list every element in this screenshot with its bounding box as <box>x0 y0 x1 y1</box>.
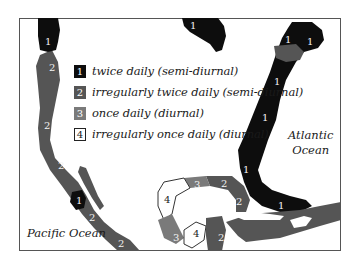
region-label-labrador: 1 <box>285 34 291 45</box>
legend-item-2: 2 irregularly twice daily (semi-diurnal) <box>74 82 303 102</box>
region-label-california: 2 <box>44 120 50 131</box>
region-label-mexico-west: 2 <box>89 212 95 223</box>
region-label-alaska: 1 <box>45 36 51 47</box>
region-label-baja: 2 <box>58 160 64 171</box>
pacific-ocean-label: Pacific Ocean <box>27 226 106 241</box>
region-label-east-coast-south: 1 <box>243 164 249 175</box>
region-label-nova-scotia: 1 <box>274 76 280 87</box>
atlantic-ocean-label: Atlantic Ocean <box>288 128 333 158</box>
hudson-bay-region <box>182 18 226 52</box>
region-label-gulf-sw: 3 <box>173 232 179 243</box>
gulf-north-type2 <box>206 176 250 212</box>
legend-item-1: 1 twice daily (semi-diurnal) <box>74 61 303 81</box>
region-label-east-coast-north: 1 <box>262 112 268 123</box>
region-label-campeche: 4 <box>193 228 199 239</box>
region-label-gulf-north: 3 <box>194 179 200 190</box>
legend-swatch-1: 1 <box>74 65 86 78</box>
legend-label-4: irregularly once daily (diurnal) <box>92 127 269 141</box>
atlantic-label-line1: Atlantic <box>288 128 333 143</box>
region-label-hudson: 1 <box>190 20 196 31</box>
region-label-newfoundland: 1 <box>307 36 313 47</box>
gulf-texas-type4 <box>158 178 190 220</box>
gulf-southwest-type3 <box>158 214 184 244</box>
legend-label-2: irregularly twice daily (semi-diurnal) <box>92 85 303 99</box>
legend-swatch-2: 2 <box>74 86 86 99</box>
region-label-yucatan: 2 <box>218 232 224 243</box>
region-label-florida-gulf: 2 <box>221 178 227 189</box>
legend-item-3: 3 once daily (diurnal) <box>74 103 303 123</box>
region-label-mexico-sw: 2 <box>118 238 124 249</box>
legend: 1 twice daily (semi-diurnal) 2 irregular… <box>74 61 303 145</box>
region-label-gulf-california: 1 <box>76 195 82 206</box>
region-label-florida-west: 2 <box>236 196 242 207</box>
region-label-texas: 4 <box>164 194 170 205</box>
atlantic-label-line2: Ocean <box>288 143 333 158</box>
region-label-bc: 2 <box>49 62 55 73</box>
legend-item-4: 4 irregularly once daily (diurnal) <box>74 124 303 144</box>
legend-label-1: twice daily (semi-diurnal) <box>92 64 238 78</box>
legend-label-3: once daily (diurnal) <box>92 106 204 120</box>
legend-swatch-4: 4 <box>74 128 86 141</box>
region-label-florida-east: 1 <box>278 200 284 211</box>
legend-swatch-3: 3 <box>74 107 86 120</box>
